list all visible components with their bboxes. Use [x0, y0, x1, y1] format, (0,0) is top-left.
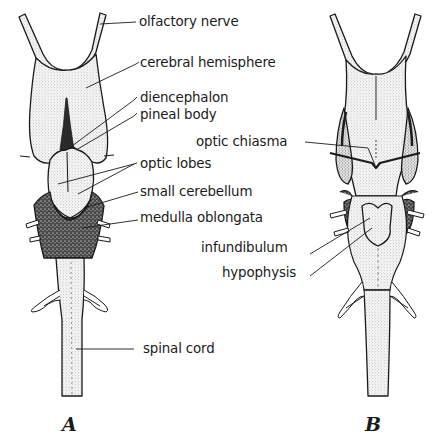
spinal-cord-b: [364, 290, 390, 396]
label-optic-chiasma: optic chiasma: [196, 134, 287, 149]
brain-diagram: olfactory nerve cerebral hemisphere dien…: [0, 0, 438, 440]
label-optic-lobes: optic lobes: [140, 156, 211, 171]
label-cerebral-hemisphere: cerebral hemisphere: [140, 55, 276, 70]
label-spinal-cord: spinal cord: [143, 341, 215, 356]
panel-letter-a: A: [62, 413, 77, 435]
panel-letter-b: B: [365, 413, 381, 435]
label-diencephalon: diencephalon: [140, 90, 228, 105]
label-small-cerebellum: small cerebellum: [140, 184, 252, 199]
label-hypophysis: hypophysis: [222, 265, 296, 280]
figure-a-drawing: [19, 13, 114, 396]
figure-b-drawing: [330, 14, 424, 396]
label-medulla-oblongata: medulla oblongata: [140, 210, 263, 225]
leader-olfactory-nerve: [100, 22, 136, 24]
label-infundibulum: infundibulum: [201, 240, 288, 255]
spinal-cord-a: [56, 258, 84, 396]
label-pineal-body: pineal body: [140, 107, 217, 122]
label-olfactory-nerve: olfactory nerve: [139, 14, 238, 29]
